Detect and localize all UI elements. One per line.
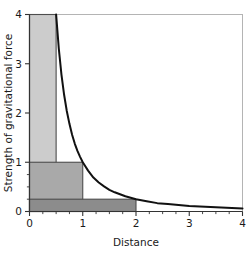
y-tick-label-0: 0 <box>15 205 22 217</box>
y-axis-title: Strength of gravitational force <box>2 34 14 193</box>
x-tick-label-1: 1 <box>79 217 86 229</box>
y-tick-label-3: 3 <box>15 58 22 70</box>
x-axis-title: Distance <box>113 236 159 248</box>
x-tick-label-4: 4 <box>239 217 246 229</box>
x-tick-label-2: 2 <box>133 217 140 229</box>
gravitational-force-chart-figure: 0123401234DistanceStrength of gravitatio… <box>0 0 251 264</box>
y-tick-label-1: 1 <box>15 156 22 168</box>
x-tick-label-3: 3 <box>186 217 193 229</box>
y-tick-label-2: 2 <box>15 107 22 119</box>
y-tick-label-4: 4 <box>15 8 22 20</box>
x-tick-label-0: 0 <box>26 217 33 229</box>
shaded-region-distance-2-force-0.25 <box>30 199 137 211</box>
chart-plot-area: 0123401234DistanceStrength of gravitatio… <box>0 0 251 264</box>
